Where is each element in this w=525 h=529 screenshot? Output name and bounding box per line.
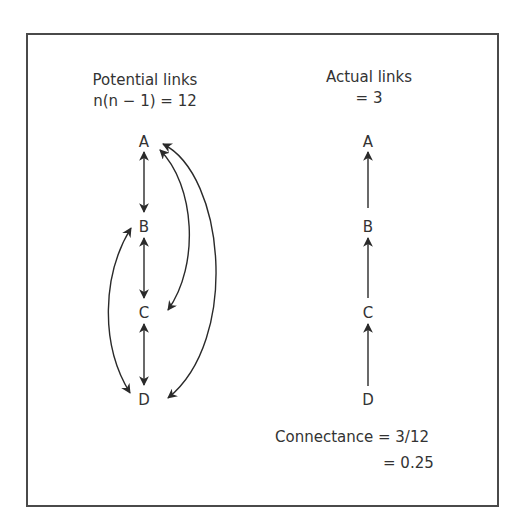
link-a-c (160, 150, 189, 310)
links-graphic (0, 0, 525, 529)
connectance-line-1: Connectance = 3/12 (275, 428, 429, 446)
connectance-line-2: = 0.25 (383, 454, 434, 472)
link-a-d (163, 144, 216, 398)
link-b-d (108, 228, 131, 393)
